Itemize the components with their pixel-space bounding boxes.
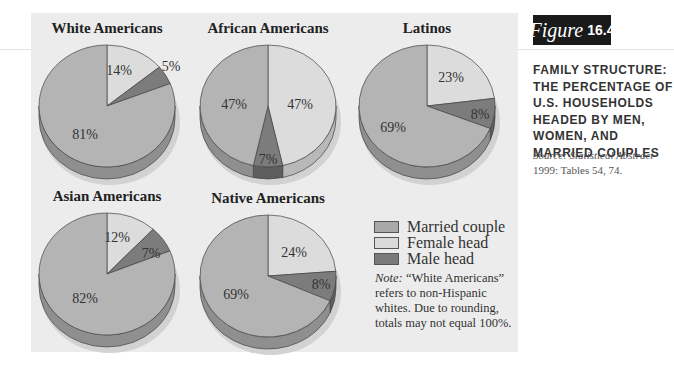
legend-item-married-couple: Married couple [374,219,505,235]
pie-value-label: 47% [287,97,313,112]
pie-title: African Americans [188,20,348,37]
pie-title: Native Americans [188,190,348,207]
source-prefix: Source: Statistical Abstract [533,149,653,161]
pie-value-label: 7% [259,152,278,167]
source-suffix: 1999: Tables 54, 74. [533,164,622,176]
male-head-swatch [374,253,399,265]
pie-chart: 47%47%7% [188,36,348,186]
pie-chart: 81%14%5% [27,36,187,186]
pie-value-label: 5% [162,59,181,74]
pie-title: White Americans [27,20,187,37]
pie-value-label: 82% [72,291,98,306]
figure-label: Figure 16.4 [533,15,611,45]
legend-label: Male head [407,250,474,268]
note-prefix: Note: [375,271,403,285]
pie-value-label: 47% [221,97,247,112]
pie-value-label: 8% [312,277,331,292]
figure-title: FAMILY STRUCTURE: THE PERCENTAGE OF U.S.… [533,62,673,161]
pie-value-label: 69% [380,120,406,135]
pie-value-label: 14% [106,63,132,78]
pie-title: Asian Americans [27,188,187,205]
pie-value-label: 69% [223,287,249,302]
pie-chart: 69%23%8% [347,36,507,186]
pie-chart: 82%12%7% [27,204,187,354]
female-head-swatch [374,237,399,249]
pie-value-label: 81% [72,127,98,142]
pie-value-label: 7% [142,246,161,261]
legend-item-female-head: Female head [374,235,505,251]
married-couple-swatch [374,221,399,233]
pie-title: Latinos [347,20,507,37]
figure-number: 16.4 [587,22,614,38]
legend-item-male-head: Male head [374,251,505,267]
pie-value-label: 12% [104,230,130,245]
pie-value-label: 8% [471,107,490,122]
figure-source: Source: Statistical Abstract 1999: Table… [533,148,673,178]
legend: Married couple Female head Male head [374,219,505,267]
pie-value-label: 23% [438,70,464,85]
figure-word: Figure [530,19,584,42]
pie-chart: 69%24%8% [188,206,348,356]
chart-note: Note: “White Americans” refers to non-Hi… [375,271,525,331]
pie-value-label: 24% [281,245,307,260]
